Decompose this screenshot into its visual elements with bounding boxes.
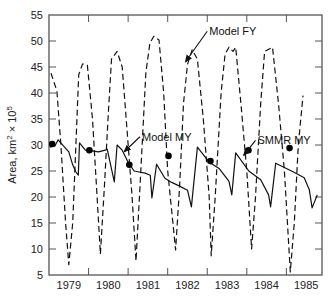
model-fy-label: Model FY xyxy=(209,25,257,37)
data-marker xyxy=(165,153,172,160)
x-tick-label: 1980 xyxy=(96,279,120,291)
model-fy-line xyxy=(51,36,303,272)
y-tick-label: 10 xyxy=(31,243,43,255)
y-tick-label: 20 xyxy=(31,191,43,203)
series-layer xyxy=(49,36,317,272)
x-tick-label: 1985 xyxy=(294,279,318,291)
data-marker xyxy=(86,147,93,154)
y-axis-label: Area, km2 × 105 xyxy=(5,106,18,184)
y-tick-label: 35 xyxy=(31,113,43,125)
smmr-my-label: SMMR MY xyxy=(258,134,312,146)
y-tick-label: 25 xyxy=(31,165,43,177)
sea-ice-area-chart: Area, km2 × 105 510152025303540455055 19… xyxy=(0,0,335,297)
y-label-mid: × 10 xyxy=(6,111,18,136)
x-axis-ticks: 1979198019811982198319841985 xyxy=(57,15,319,291)
x-tick-label: 1983 xyxy=(215,279,239,291)
data-marker xyxy=(49,141,56,148)
annotations: Model FYModel MYSMMR MY xyxy=(124,25,311,155)
x-tick-label: 1984 xyxy=(254,279,278,291)
data-marker xyxy=(126,161,133,168)
x-tick-label: 1979 xyxy=(57,279,81,291)
y-tick-label: 55 xyxy=(31,9,43,21)
y-tick-label: 30 xyxy=(31,139,43,151)
model-my-arrow xyxy=(124,137,140,152)
y-tick-label: 50 xyxy=(31,35,43,47)
x-tick-label: 1982 xyxy=(175,279,199,291)
y-label-sup2: 5 xyxy=(5,106,14,111)
y-tick-label: 5 xyxy=(37,269,43,281)
y-tick-label: 45 xyxy=(31,61,43,73)
x-tick-label: 1981 xyxy=(136,279,160,291)
y-tick-label: 40 xyxy=(31,87,43,99)
smmr-my-markers xyxy=(49,141,293,168)
model-my-label: Model MY xyxy=(142,131,192,143)
y-tick-label: 15 xyxy=(31,217,43,229)
data-marker xyxy=(207,158,214,165)
svg-text:Area, km2 × 105: Area, km2 × 105 xyxy=(5,106,18,184)
y-label-base: Area, km xyxy=(6,140,18,184)
